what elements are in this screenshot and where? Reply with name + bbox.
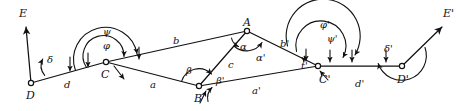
edge-label-b: b — [173, 36, 179, 46]
edge-label-a-prime: a' — [252, 86, 261, 96]
direction-tick-arrows — [70, 47, 386, 103]
node-marker-D-prime — [399, 63, 404, 68]
angle-label-alpha-prime: α' — [256, 53, 266, 63]
angle-label-phi: φ — [103, 41, 110, 51]
angle-label-alpha: α — [240, 42, 247, 52]
angle-label-psi: ψ — [103, 27, 111, 37]
node-marker-C — [103, 59, 108, 64]
node-label-B: B — [194, 93, 202, 104]
angle-label-beta: β — [186, 66, 192, 76]
ray-Dprime-to-Eprime — [402, 27, 442, 66]
node-label-C: C — [101, 69, 109, 80]
angle-label-delta-prime: δ' — [384, 44, 393, 54]
node-label-D-prime: D' — [397, 74, 409, 85]
traverse-diagram-svg — [0, 0, 460, 111]
node-marker-B — [196, 83, 201, 88]
node-label-A: A — [243, 17, 251, 28]
angle-label-delta: δ — [47, 55, 53, 65]
edge-label-c: c — [228, 60, 234, 70]
node-label-D: D — [26, 90, 35, 101]
node-marker-A — [244, 28, 249, 33]
edge-label-a: a — [150, 80, 156, 90]
node-label-C-prime: C' — [319, 74, 330, 85]
ray-D-to-E — [26, 27, 31, 83]
angle-label-psi-prime: ψ' — [327, 34, 338, 44]
angle-arcs — [41, 0, 426, 102]
edge-label-b-prime: b' — [280, 39, 289, 49]
ray-label-E: E — [19, 8, 27, 19]
angle-arc-beta-prime — [208, 88, 212, 102]
angle-label-beta-prime: β' — [216, 76, 225, 86]
ray-label-E-prime: E' — [443, 8, 454, 19]
diagram-canvas: D C B A C' D' E E' d a b c b' a' d' δ ψ … — [0, 0, 460, 111]
tick-arrow-C-down — [114, 66, 124, 79]
edge-label-d-prime: d' — [355, 79, 364, 89]
angle-arc-delta — [41, 59, 45, 75]
angle-label-phi-prime: φ' — [320, 20, 330, 30]
node-marker-C-prime — [315, 63, 320, 68]
node-marker-D — [28, 80, 33, 85]
edge-label-d: d — [64, 80, 70, 90]
angle-label-t-prime: t' — [301, 61, 308, 71]
